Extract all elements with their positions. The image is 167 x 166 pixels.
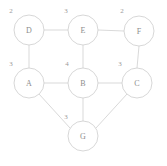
node-degree-badge-g: 3 — [64, 113, 68, 121]
node-label-c: C — [134, 79, 139, 88]
node-label-e: E — [81, 26, 86, 35]
node-label-a: A — [26, 79, 32, 88]
graph-node-a[interactable]: A — [14, 68, 44, 98]
graph-node-b[interactable]: B — [68, 68, 98, 98]
node-degree-badge-a: 3 — [9, 60, 13, 68]
node-degree-badge-e: 3 — [64, 7, 68, 15]
node-layer: DEFABCG — [14, 15, 154, 151]
graph-node-f[interactable]: F — [124, 16, 154, 46]
graph-node-g[interactable]: G — [68, 121, 98, 151]
graph-edge-c-g — [96, 94, 127, 128]
node-label-g: G — [80, 132, 86, 141]
node-label-f: F — [137, 27, 142, 36]
node-degree-badge-f: 2 — [120, 7, 124, 15]
node-label-d: D — [26, 26, 32, 35]
node-degree-badge-c: 3 — [118, 60, 122, 68]
graph-edge-e-f — [98, 30, 124, 31]
graph-node-d[interactable]: D — [14, 15, 44, 45]
graph-svg: DEFABCG 2323433 — [0, 0, 167, 166]
node-label-b: B — [80, 79, 85, 88]
node-degree-badge-b: 4 — [65, 60, 69, 68]
node-degree-badge-d: 2 — [9, 7, 13, 15]
graph-diagram-canvas: DEFABCG 2323433 — [0, 0, 167, 166]
graph-edge-f-c — [137, 46, 139, 68]
graph-node-e[interactable]: E — [68, 15, 98, 45]
graph-edge-a-g — [39, 94, 70, 128]
graph-node-c[interactable]: C — [122, 68, 152, 98]
